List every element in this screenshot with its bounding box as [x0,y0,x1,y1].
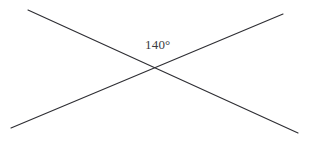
line-rising [11,14,283,128]
angle-figure: 140° [0,0,311,147]
line-falling [28,10,298,133]
angle-label: 140° [145,38,171,51]
figure-canvas [0,0,311,147]
